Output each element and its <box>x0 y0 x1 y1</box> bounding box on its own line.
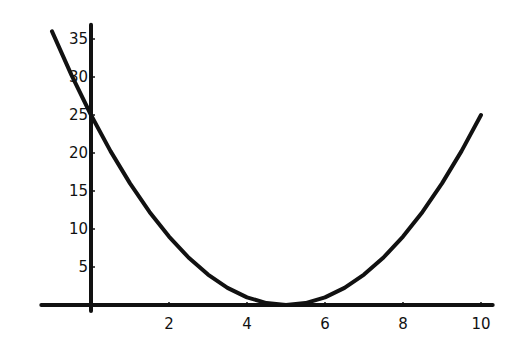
y-tick-label: 15 <box>69 182 88 200</box>
ticks: 2468105101520253035 <box>69 30 491 333</box>
x-tick-label: 2 <box>164 315 174 333</box>
series <box>52 31 481 305</box>
axes <box>41 25 492 311</box>
y-tick-label: 25 <box>69 106 88 124</box>
y-tick-label: 10 <box>69 220 88 238</box>
y-tick-label: 5 <box>78 258 88 276</box>
x-tick-label: 6 <box>320 315 330 333</box>
curve-parabola <box>52 31 481 305</box>
parabola-chart: 2468105101520253035 <box>0 0 521 350</box>
x-tick-label: 4 <box>242 315 252 333</box>
x-tick-label: 8 <box>398 315 408 333</box>
y-tick-label: 35 <box>69 30 88 48</box>
y-tick-label: 20 <box>69 144 88 162</box>
x-tick-label: 10 <box>471 315 490 333</box>
